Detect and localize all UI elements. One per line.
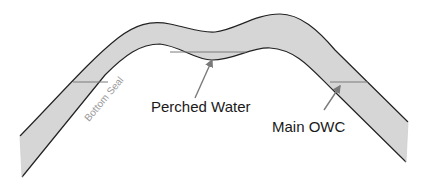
reservoir-layer xyxy=(20,14,408,177)
main-owc-label: Main OWC xyxy=(272,118,346,135)
perched-water-label: Perched Water xyxy=(151,98,251,115)
diagram-canvas: Bottom Seal Perched Water Main OWC xyxy=(0,0,426,186)
perched-water-arrow-icon xyxy=(195,60,212,98)
